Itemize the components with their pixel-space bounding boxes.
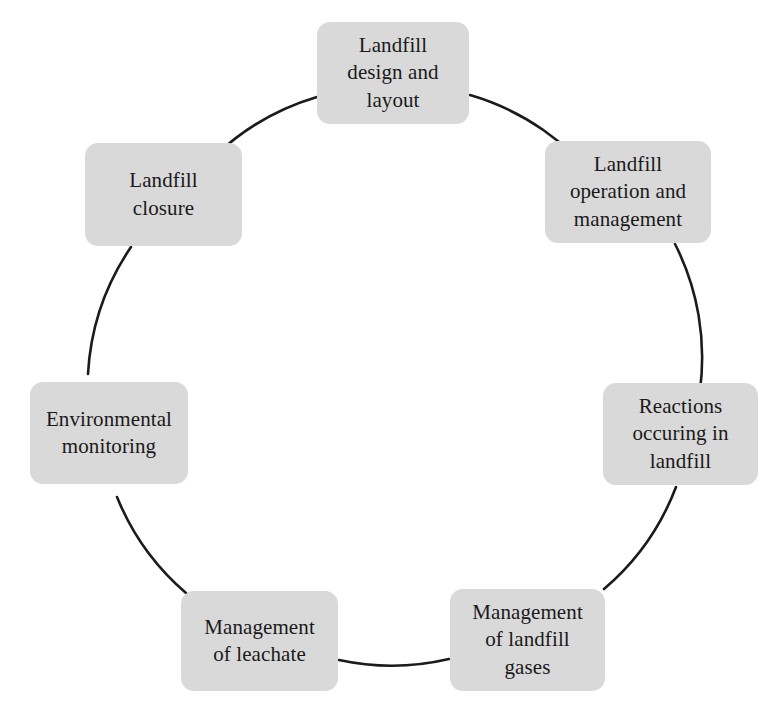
node-label-management-of-landfill-gases: Management of landfill gases bbox=[468, 599, 587, 681]
connector-monitoring-to-closure bbox=[88, 247, 131, 374]
node-management-of-leachate[interactable]: Management of leachate bbox=[181, 591, 338, 691]
connector-leachate-to-monitoring bbox=[117, 497, 186, 593]
node-label-reactions-occuring-in-landfill: Reactions occuring in landfill bbox=[628, 393, 732, 475]
node-landfill-closure[interactable]: Landfill closure bbox=[85, 143, 242, 246]
connector-reactions-to-gases bbox=[604, 487, 676, 589]
node-environmental-monitoring[interactable]: Environmental monitoring bbox=[30, 382, 188, 484]
node-label-landfill-closure: Landfill closure bbox=[125, 167, 201, 222]
node-landfill-design-and-layout[interactable]: Landfill design and layout bbox=[317, 22, 469, 124]
node-label-environmental-monitoring: Environmental monitoring bbox=[42, 406, 176, 461]
node-management-of-landfill-gases[interactable]: Management of landfill gases bbox=[450, 589, 605, 691]
connector-gases-to-leachate bbox=[339, 659, 449, 666]
node-label-landfill-design-and-layout: Landfill design and layout bbox=[343, 32, 442, 114]
node-landfill-operation-and-management[interactable]: Landfill operation and management bbox=[545, 141, 711, 243]
node-label-management-of-leachate: Management of leachate bbox=[200, 614, 319, 669]
landfill-lifecycle-cycle-diagram: Landfill design and layout Landfill oper… bbox=[0, 0, 773, 720]
node-reactions-occuring-in-landfill[interactable]: Reactions occuring in landfill bbox=[603, 383, 758, 485]
node-label-landfill-operation-and-management: Landfill operation and management bbox=[566, 151, 690, 233]
connector-operation-to-reactions bbox=[675, 244, 702, 390]
